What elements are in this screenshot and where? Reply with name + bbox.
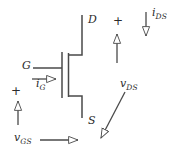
- ig-base: i: [36, 77, 40, 90]
- vgs-plus-sign: +: [11, 85, 21, 97]
- vgs-subscript: GS: [20, 137, 32, 146]
- vds-subscript: DS: [126, 83, 138, 92]
- source-label: S: [88, 115, 96, 126]
- source-lead: [69, 96, 83, 118]
- mosfet-symbol: [33, 15, 82, 118]
- ids-subscript: DS: [156, 12, 168, 21]
- mosfet-circuit-figure: D S G iG iDS vGS vDS + +: [0, 0, 179, 160]
- drain-lead: [69, 15, 83, 55]
- drain-label: D: [88, 14, 97, 25]
- vds-plus-sign: +: [113, 15, 123, 27]
- vgs-voltage-label: vGS: [14, 132, 32, 143]
- ig-subscript: G: [40, 83, 46, 92]
- vds-arrow: [101, 92, 125, 138]
- vds-voltage-label: vDS: [120, 78, 138, 89]
- ids-base: i: [152, 6, 156, 19]
- ids-current-label: iDS: [152, 7, 167, 18]
- ig-current-label: iG: [36, 78, 46, 89]
- gate-label: G: [22, 60, 31, 71]
